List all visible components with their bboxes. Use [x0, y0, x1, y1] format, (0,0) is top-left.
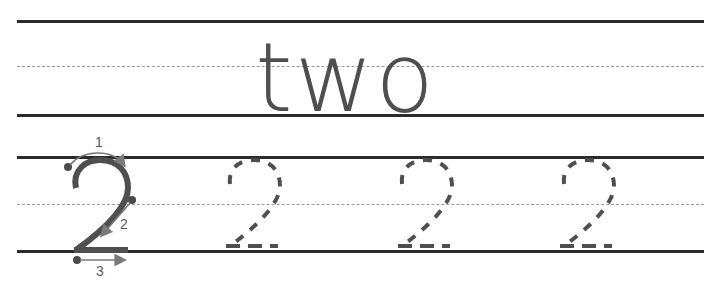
trace-digit-two-3[interactable]: [560, 160, 614, 246]
stroke-label-2: 2: [120, 216, 128, 232]
digit-canvas: 1 2 3: [0, 0, 718, 285]
model-digit-two: [74, 160, 128, 253]
stroke-label-1: 1: [95, 134, 103, 150]
trace-digit-two-2[interactable]: [398, 160, 452, 246]
stroke-2-arrow-icon: [102, 196, 136, 235]
trace-digit-two-1[interactable]: [226, 160, 280, 246]
stroke-label-3: 3: [96, 263, 104, 279]
